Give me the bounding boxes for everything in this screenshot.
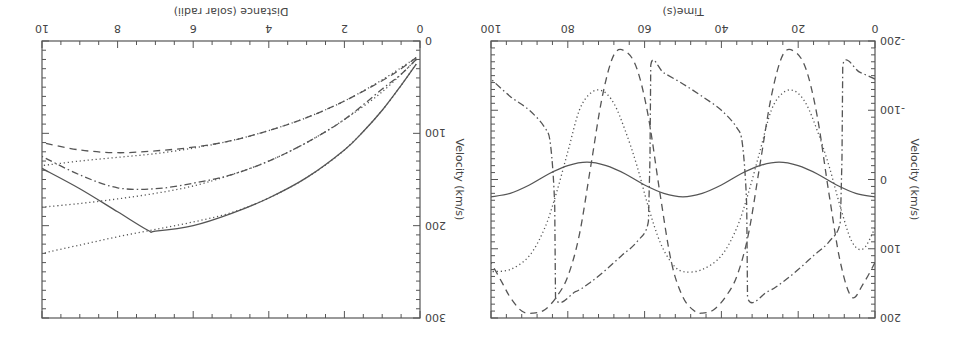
plot-frame <box>42 41 420 318</box>
y-tick-label: -200 <box>880 34 905 47</box>
x-tick-label: 4 <box>265 22 272 35</box>
x-tick-label: 100 <box>481 22 502 35</box>
rotated-figure: 020406080100-200-1000100200Time(s)Veloci… <box>0 0 953 345</box>
x-tick-label: 0 <box>417 22 424 35</box>
y-tick-label: 100 <box>880 242 901 255</box>
x-tick-label: 6 <box>190 22 197 35</box>
x-tick-label: 10 <box>35 22 49 35</box>
series-dash-dot <box>491 60 875 303</box>
series-dash-dot <box>42 59 416 189</box>
plot-frame <box>491 41 875 318</box>
series-dotted-2 <box>42 59 416 207</box>
figure-canvas: 020406080100-200-1000100200Time(s)Veloci… <box>0 0 953 345</box>
x-axis-label: Distance (solar radii) <box>174 5 289 18</box>
series-dashed <box>491 49 875 313</box>
y-tick-label: 200 <box>425 219 446 232</box>
y-tick-label: 0 <box>880 173 887 186</box>
x-tick-label: 2 <box>341 22 348 35</box>
distance-velocity-panel: 02468100100200300Distance (solar radii)V… <box>35 5 466 324</box>
y-tick-label: -100 <box>880 103 905 116</box>
y-tick-label: 0 <box>425 34 432 47</box>
x-tick-label: 20 <box>791 22 805 35</box>
series-solid <box>491 162 875 197</box>
x-tick-label: 60 <box>638 22 652 35</box>
time-velocity-panel: 020406080100-200-1000100200Time(s)Veloci… <box>481 5 922 324</box>
series-dashed <box>42 58 416 153</box>
y-tick-label: 300 <box>425 311 446 324</box>
x-tick-label: 40 <box>714 22 728 35</box>
y-tick-label: 200 <box>880 311 901 324</box>
series-dotted-3 <box>42 58 416 166</box>
series-dotted <box>491 90 875 272</box>
x-tick-label: 0 <box>872 22 879 35</box>
y-axis-label: Velocity (km/s) <box>453 139 466 221</box>
x-tick-label: 8 <box>114 22 121 35</box>
series-solid <box>42 64 416 232</box>
y-axis-label: Velocity (km/s) <box>908 139 921 221</box>
y-tick-label: 100 <box>425 126 446 139</box>
x-axis-label: Time(s) <box>662 5 704 18</box>
x-tick-label: 80 <box>561 22 575 35</box>
